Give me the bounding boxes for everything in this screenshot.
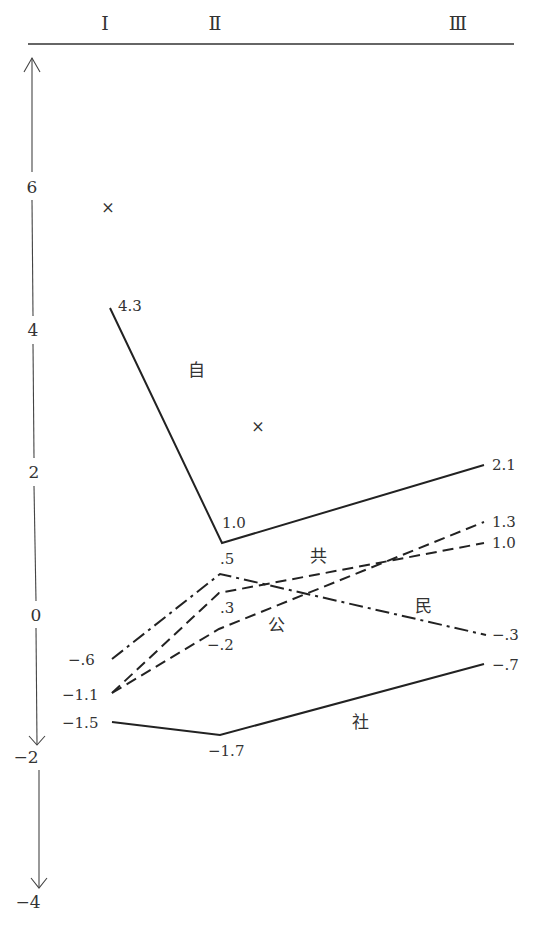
value-label: .3 — [220, 599, 234, 617]
value-label: −1.5 — [62, 714, 98, 732]
value-label: −1.7 — [208, 742, 244, 760]
chart-canvas: Ⅰ Ⅱ Ⅲ 6 4 2 0 −2 −4 × × 4.3 1.0 2.1 自 .3… — [0, 0, 542, 941]
y-tick-label: 0 — [31, 605, 42, 625]
value-label: −.6 — [68, 651, 95, 669]
cross-marker-icon: × — [251, 417, 264, 436]
value-label: 1.0 — [492, 534, 516, 552]
value-label: 1.0 — [222, 514, 246, 532]
y-tick-label: 6 — [27, 177, 38, 197]
series-label-minsha: 民 — [415, 596, 432, 616]
y-tick-label: 4 — [28, 320, 39, 340]
series-minsha-line — [112, 574, 486, 659]
y-tick-label: −2 — [13, 747, 38, 767]
y-tick-label: 2 — [29, 462, 40, 482]
series-label-kyosan: 共 — [310, 546, 327, 566]
series-label-shakai: 社 — [352, 712, 369, 732]
series-shakai-line — [112, 664, 484, 735]
value-label: 4.3 — [118, 297, 142, 315]
value-label: 1.3 — [492, 513, 516, 531]
column-header-1: Ⅰ — [101, 12, 109, 34]
series-label-jimin: 自 — [188, 360, 205, 380]
series-label-komei: 公 — [268, 615, 285, 635]
column-header-2: Ⅱ — [209, 12, 222, 34]
cross-marker-icon: × — [101, 198, 114, 217]
value-label: −.2 — [207, 636, 234, 654]
value-label: −1.1 — [62, 686, 98, 704]
column-header-3: Ⅲ — [449, 12, 467, 34]
value-label: −.7 — [492, 656, 519, 674]
series-kyosan-line — [112, 543, 484, 693]
y-tick-label: −4 — [15, 892, 40, 912]
value-label: .5 — [220, 550, 234, 568]
series-jimin-line — [110, 308, 484, 543]
value-label: 2.1 — [492, 456, 516, 474]
value-label: −.3 — [492, 626, 519, 644]
